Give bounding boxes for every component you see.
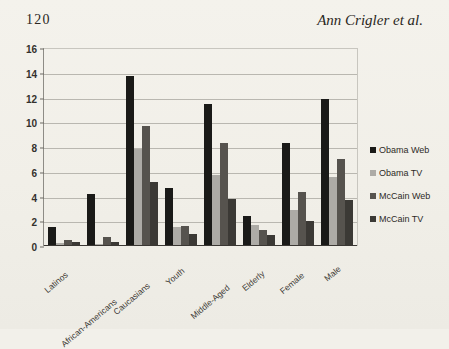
bar-groups [44,49,357,246]
y-tick-label: 0 [31,242,37,253]
bar-group [161,49,200,246]
plot-area: 0246810121416 [43,48,358,246]
bar [48,227,56,246]
bar [204,104,212,246]
bar [243,216,251,246]
bar [165,188,173,246]
bar [290,210,298,246]
x-axis-label: Male [337,252,358,272]
y-tick-label: 14 [26,68,37,79]
bar-group [279,49,318,246]
bar [282,143,290,246]
legend-item: McCain TV [370,214,448,224]
legend-swatch-icon [370,170,376,176]
y-tick-label: 2 [31,217,37,228]
bar [337,159,345,246]
bar-group [122,49,161,246]
legend-item: Obama TV [370,168,448,178]
running-title: Ann Crigler et al. [317,12,423,29]
legend-label: Obama TV [379,168,422,178]
legend-swatch-icon [370,147,376,153]
bar [321,99,329,246]
legend-item: McCain Web [370,191,448,201]
x-label-cell: Latinos [43,248,82,326]
bar [259,230,267,246]
bar-chart-figure: 0246810121416 LatinosAfrican-AmericansCa… [0,40,449,329]
x-label-cell: Female [279,248,318,326]
x-label-cell: Middle-Aged [201,248,240,326]
running-head: 120 Ann Crigler et al. [26,12,423,34]
bar [212,175,220,246]
bar [87,194,95,246]
x-axis-label-text: Elderly [240,269,266,293]
legend-label: Obama Web [379,145,429,155]
x-axis-label-text: Youth [163,266,186,287]
bar-group [83,49,122,246]
bar [142,126,150,246]
bar [134,149,142,246]
bar [181,226,189,246]
x-label-cell: Elderly [240,248,279,326]
x-axis-line [44,245,357,246]
bar-group [201,49,240,246]
y-tick-label: 12 [26,93,37,104]
x-axis-label-text: Female [278,270,306,296]
bar [251,225,259,246]
y-tick-label: 10 [26,118,37,129]
bar-group [318,49,357,246]
legend-label: McCain TV [379,214,423,224]
bar [298,192,306,246]
chart-legend: Obama WebObama TVMcCain WebMcCain TV [370,145,448,237]
y-tick-label: 8 [31,143,37,154]
bar [329,177,337,246]
y-tick-label: 4 [31,192,37,203]
x-axis-label: Youth [180,252,203,273]
legend-label: McCain Web [379,191,430,201]
bar [228,199,236,246]
bar [345,200,353,246]
bar [150,182,158,246]
bar [126,76,134,246]
y-tick-label: 16 [26,44,37,55]
bar-group [240,49,279,246]
x-label-cell: Male [319,248,358,326]
page-number: 120 [26,12,51,28]
x-axis-label-text: Latinos [42,270,69,295]
legend-swatch-icon [370,193,376,199]
x-axis-labels: LatinosAfrican-AmericansCaucasiansYouthM… [43,248,358,326]
bar [220,143,228,246]
bar [173,227,181,246]
bar-group [44,49,83,246]
y-tick-label: 6 [31,167,37,178]
legend-item: Obama Web [370,145,448,155]
legend-swatch-icon [370,216,376,222]
x-label-cell: Caucasians [122,248,161,326]
x-axis-label-text: Male [323,264,344,284]
bar [306,221,314,246]
